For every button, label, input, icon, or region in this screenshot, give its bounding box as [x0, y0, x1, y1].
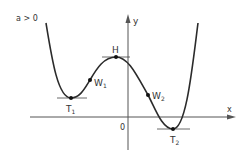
- y-axis: [126, 14, 131, 150]
- label-w1: W1: [94, 78, 107, 89]
- y-axis-label: y: [133, 16, 139, 26]
- point-w2: [146, 93, 150, 97]
- point-w1: [88, 78, 92, 82]
- point-h: [114, 55, 118, 59]
- label-t2: T2: [169, 135, 180, 146]
- label-h: H: [112, 45, 119, 55]
- origin-label: 0: [120, 123, 125, 132]
- label-t1: T1: [65, 104, 76, 115]
- x-axis-arrow-icon: [227, 115, 236, 120]
- quartic-function-diagram: a > 0 y x 0 H T1 W1 W2 T2: [0, 0, 248, 153]
- point-t1: [69, 96, 73, 100]
- condition-label: a > 0: [16, 14, 38, 23]
- x-axis: [30, 115, 236, 120]
- point-t2: [171, 127, 175, 131]
- label-w2: W2: [152, 91, 165, 102]
- x-axis-label: x: [227, 105, 232, 114]
- y-axis-arrow-icon: [126, 14, 131, 23]
